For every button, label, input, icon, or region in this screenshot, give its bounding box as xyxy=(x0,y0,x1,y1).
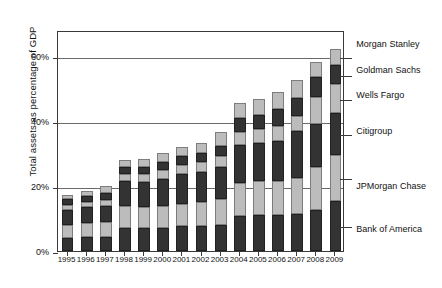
bar-segment xyxy=(100,193,112,200)
x-tick-mark xyxy=(162,252,163,256)
x-tick-label: 2002 xyxy=(191,256,210,264)
y-tick-label: 40% xyxy=(19,118,49,127)
x-tick-label: 2004 xyxy=(229,256,248,264)
bar-segment xyxy=(234,103,246,118)
x-tick-label: 1999 xyxy=(134,256,153,264)
x-tick-mark xyxy=(277,252,278,256)
bar-segment xyxy=(291,116,303,131)
bar-segment xyxy=(330,84,342,113)
x-tick-label: 1997 xyxy=(95,256,114,264)
legend-label-morgan-stanley: Morgan Stanley xyxy=(356,40,419,49)
bar-segment xyxy=(119,160,131,167)
bar-segment xyxy=(253,143,265,181)
bar-segment xyxy=(310,210,322,251)
y-tick-label: 60% xyxy=(19,53,49,62)
bar-segment xyxy=(234,132,246,145)
bar-segment xyxy=(100,222,112,237)
x-tick-label: 2007 xyxy=(287,256,306,264)
bar-segment xyxy=(330,49,342,65)
bar-segment xyxy=(138,228,150,251)
x-tick-mark xyxy=(67,252,68,256)
y-tick-label: 0% xyxy=(19,248,49,257)
bar-segment xyxy=(176,165,188,174)
bar-segment xyxy=(62,210,74,225)
bar-segment xyxy=(272,92,284,109)
bar-segment xyxy=(291,80,303,98)
bar-segment xyxy=(157,153,169,161)
bar-segment xyxy=(330,155,342,201)
bar-segment xyxy=(138,207,150,228)
bar-segment xyxy=(119,174,131,181)
bar-segment xyxy=(176,147,188,156)
bar-segment xyxy=(157,162,169,170)
legend-label-citigroup: Citigroup xyxy=(356,127,392,136)
x-tick-mark xyxy=(315,252,316,256)
bar-segment xyxy=(215,132,227,146)
bar-segment xyxy=(310,62,322,78)
x-tick-label: 2008 xyxy=(306,256,325,264)
x-tick-label: 2001 xyxy=(172,256,191,264)
bar-segment xyxy=(330,201,342,251)
bar-segment xyxy=(330,113,342,155)
legend-label-jpmorgan-chase: JPMorgan Chase xyxy=(356,182,426,191)
x-tick-label: 1995 xyxy=(57,256,76,264)
bar-segment xyxy=(310,77,322,97)
bar-column xyxy=(272,92,284,251)
bar-segment xyxy=(138,159,150,166)
bar-segment xyxy=(253,181,265,214)
bar-column xyxy=(330,49,342,251)
bar-segment xyxy=(291,214,303,251)
x-tick-mark xyxy=(181,252,182,256)
bar-segment xyxy=(196,153,208,162)
bar-segment xyxy=(253,115,265,130)
y-axis-title: Total assets as percentage of GDP xyxy=(27,0,38,212)
bar-column xyxy=(138,159,150,251)
bar-column xyxy=(157,153,169,251)
legend-label-goldman-sachs: Goldman Sachs xyxy=(356,66,420,75)
bar-segment xyxy=(62,238,74,251)
bar-segment xyxy=(157,170,169,178)
bar-segment xyxy=(119,167,131,174)
bar-segment xyxy=(272,141,284,181)
x-tick-mark xyxy=(239,252,240,256)
x-tick-label: 2005 xyxy=(248,256,267,264)
bar-segment xyxy=(253,215,265,251)
bar-column xyxy=(62,195,74,251)
bar-segment xyxy=(196,143,208,152)
x-tick-label: 2009 xyxy=(325,256,344,264)
bar-segment xyxy=(291,131,303,177)
bar-segment xyxy=(291,98,303,116)
bar-segment xyxy=(215,146,227,157)
bar-column xyxy=(215,132,227,251)
bar-segment xyxy=(310,167,322,210)
bar-segment xyxy=(234,118,246,132)
bar-segment xyxy=(157,228,169,251)
legend-label-bank-of-america: Bank of America xyxy=(356,225,422,234)
bar-segment xyxy=(138,174,150,182)
bar-segment xyxy=(81,237,93,251)
bar-column xyxy=(234,103,246,251)
bar-segment xyxy=(81,223,93,237)
bar-segment xyxy=(176,174,188,204)
bar-segment xyxy=(157,206,169,228)
bar-column xyxy=(310,62,322,251)
bar-segment xyxy=(291,178,303,214)
bar-segment xyxy=(176,226,188,251)
x-tick-mark xyxy=(86,252,87,256)
bar-segment xyxy=(81,207,93,223)
bar-segment xyxy=(196,172,208,202)
bar-segment xyxy=(215,225,227,251)
bar-column xyxy=(81,191,93,251)
bar-segment xyxy=(138,182,150,207)
x-tick-mark xyxy=(105,252,106,256)
x-tick-label: 2000 xyxy=(153,256,172,264)
x-tick-mark xyxy=(201,252,202,256)
plot-area xyxy=(57,31,344,252)
bar-segment xyxy=(272,109,284,126)
bar-segment xyxy=(100,206,112,223)
bar-segment xyxy=(119,181,131,206)
bar-segment xyxy=(176,156,188,165)
bar-column xyxy=(253,99,265,251)
y-tick-mark xyxy=(53,253,58,254)
bar-segment xyxy=(234,145,246,184)
